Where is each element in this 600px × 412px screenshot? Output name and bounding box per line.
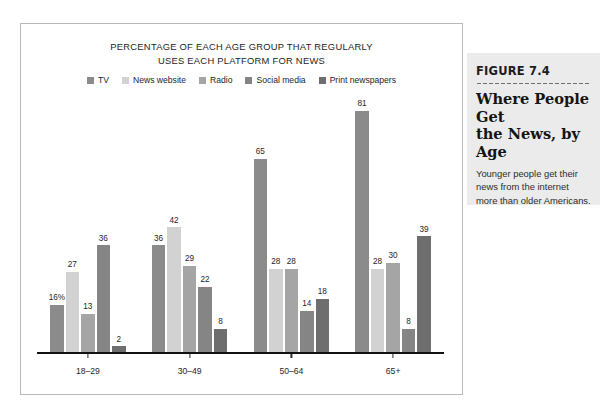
figure-body-text: Younger people get their news from the i… xyxy=(476,167,591,205)
bar-groups: 16%27133623642292286528281418812830839 xyxy=(37,99,444,352)
bar-tv-65+: 81 xyxy=(355,99,369,352)
bar-rect xyxy=(198,287,212,353)
bar-rect xyxy=(254,159,268,353)
bar-value-label: 39 xyxy=(420,225,429,235)
legend-item-radio: Radio xyxy=(199,75,232,85)
bar-rect xyxy=(66,272,80,352)
bar-tv-50–64: 65 xyxy=(254,99,268,352)
bar-value-label: 8 xyxy=(406,317,411,327)
x-tick-label: 65+ xyxy=(342,366,444,376)
legend-swatch-icon xyxy=(122,77,129,84)
bar-value-label: 27 xyxy=(68,260,77,270)
x-tick-65+: 65+ xyxy=(342,366,444,376)
bar-radio-30–49: 29 xyxy=(183,99,197,352)
bar-print-newspapers-65+: 39 xyxy=(417,99,431,352)
bar-value-label: 36 xyxy=(99,234,108,244)
bar-value-label: 28 xyxy=(287,257,296,267)
legend-label: Print newspapers xyxy=(330,75,396,85)
x-tick-30–49: 30–49 xyxy=(139,366,241,376)
figure-caption-panel: FIGURE 7.4 Where People Get the News, by… xyxy=(467,53,600,205)
x-tick-18–29: 18–29 xyxy=(37,366,139,376)
bar-value-label: 42 xyxy=(170,216,179,226)
legend-swatch-icon xyxy=(199,77,206,84)
bar-value-label: 29 xyxy=(185,254,194,264)
bar-print-newspapers-18–29: 2 xyxy=(112,99,126,352)
x-tick-mark xyxy=(393,354,394,358)
bar-rect xyxy=(81,314,95,353)
legend-item-print-newspapers: Print newspapers xyxy=(319,75,396,85)
bar-radio-65+: 30 xyxy=(386,99,400,352)
bar-rect xyxy=(402,329,416,353)
bar-news-website-50–64: 28 xyxy=(269,99,283,352)
bar-print-newspapers-30–49: 8 xyxy=(214,99,228,352)
bar-group-30–49: 364229228 xyxy=(139,99,241,352)
bar-value-label: 13 xyxy=(83,302,92,312)
legend-label: Radio xyxy=(210,75,232,85)
bar-social-media-65+: 8 xyxy=(402,99,416,352)
legend-label: News website xyxy=(133,75,186,85)
x-tick-label: 30–49 xyxy=(139,366,241,376)
bar-social-media-18–29: 36 xyxy=(97,99,111,352)
bar-value-label: 16% xyxy=(49,293,65,303)
figure-heading: Where People Get the News, by Age xyxy=(476,90,591,160)
bar-rect xyxy=(300,311,314,353)
bar-rect xyxy=(50,305,64,353)
bar-value-label: 22 xyxy=(201,275,210,285)
bar-rect xyxy=(97,245,111,352)
x-tick-50–64: 50–64 xyxy=(241,366,343,376)
legend-swatch-icon xyxy=(319,77,326,84)
bar-value-label: 28 xyxy=(373,257,382,267)
bar-value-label: 8 xyxy=(218,317,223,327)
bar-news-website-18–29: 27 xyxy=(66,99,80,352)
legend-swatch-icon xyxy=(87,77,94,84)
x-tick-label: 50–64 xyxy=(241,366,343,376)
plot-area: 16%27133623642292286528281418812830839 xyxy=(37,99,444,354)
bar-group-50–64: 6528281418 xyxy=(241,99,343,352)
bar-rect xyxy=(355,111,369,352)
legend-swatch-icon xyxy=(245,77,252,84)
bar-value-label: 2 xyxy=(117,335,122,345)
bar-social-media-50–64: 14 xyxy=(300,99,314,352)
bar-rect xyxy=(269,269,283,352)
bar-value-label: 81 xyxy=(358,99,367,109)
bar-rect xyxy=(167,227,181,352)
legend-item-tv: TV xyxy=(87,75,109,85)
bar-news-website-65+: 28 xyxy=(371,99,385,352)
figure-number: FIGURE 7.4 xyxy=(476,64,591,78)
bar-rect xyxy=(285,269,299,352)
bar-social-media-30–49: 22 xyxy=(198,99,212,352)
chart-legend: TVNews websiteRadioSocial mediaPrint new… xyxy=(21,75,462,85)
bar-value-label: 18 xyxy=(318,287,327,297)
bar-rect xyxy=(152,245,166,352)
legend-item-social-media: Social media xyxy=(245,75,305,85)
legend-label: TV xyxy=(98,75,109,85)
x-axis-line xyxy=(37,352,444,354)
bar-value-label: 36 xyxy=(154,234,163,244)
bar-group-65+: 812830839 xyxy=(342,99,444,352)
bar-tv-18–29: 16% xyxy=(50,99,64,352)
bar-rect xyxy=(417,236,431,352)
bar-rect xyxy=(371,269,385,352)
x-tick-mark xyxy=(189,354,190,358)
x-tick-mark xyxy=(87,354,88,358)
chart-title: PERCENTAGE OF EACH AGE GROUP THAT REGULA… xyxy=(21,40,462,67)
bar-rect xyxy=(386,263,400,352)
bar-tv-30–49: 36 xyxy=(152,99,166,352)
bar-news-website-30–49: 42 xyxy=(167,99,181,352)
legend-item-news-website: News website xyxy=(122,75,186,85)
dotted-rule-divider xyxy=(476,82,591,85)
bar-value-label: 65 xyxy=(256,147,265,157)
figure-frame: PERCENTAGE OF EACH AGE GROUP THAT REGULA… xyxy=(20,23,463,395)
x-tick-label: 18–29 xyxy=(37,366,139,376)
bar-radio-18–29: 13 xyxy=(81,99,95,352)
bar-value-label: 28 xyxy=(271,257,280,267)
bar-rect xyxy=(183,266,197,352)
bar-value-label: 14 xyxy=(302,299,311,309)
bar-radio-50–64: 28 xyxy=(285,99,299,352)
bar-rect xyxy=(316,299,330,353)
x-tick-mark xyxy=(291,354,292,358)
bar-rect xyxy=(214,329,228,353)
bar-value-label: 30 xyxy=(389,251,398,261)
bar-group-18–29: 16%2713362 xyxy=(37,99,139,352)
bar-print-newspapers-50–64: 18 xyxy=(316,99,330,352)
